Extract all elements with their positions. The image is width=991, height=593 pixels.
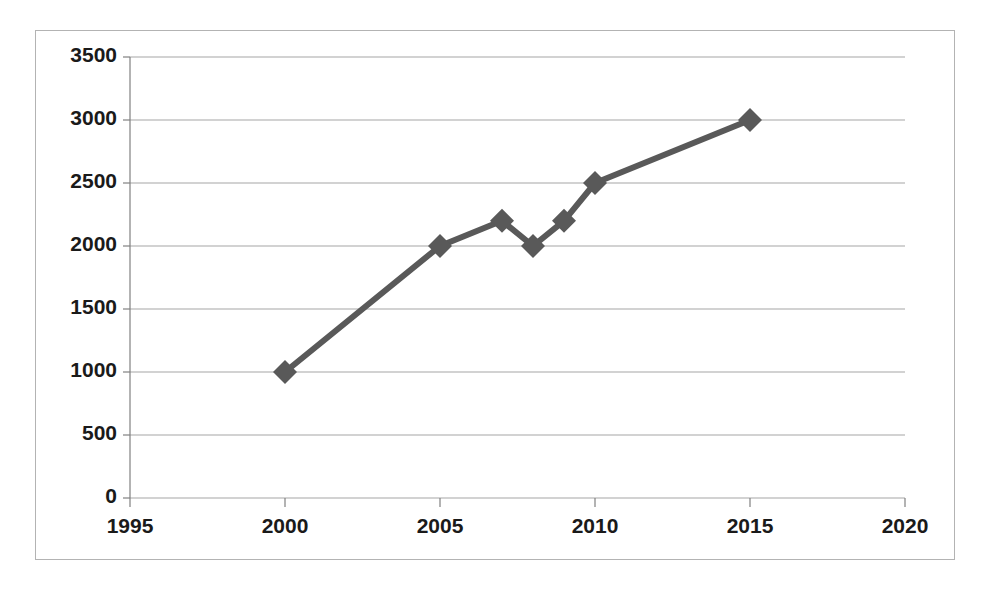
x-tick-label: 2000 (225, 514, 345, 538)
data-point-marker (738, 108, 762, 132)
y-tick-label: 3500 (70, 43, 117, 67)
x-tick-label: 2005 (380, 514, 500, 538)
plot-area (0, 0, 991, 593)
line-chart: 0500100015002000250030003500 19952000200… (0, 0, 991, 593)
y-tick-label: 0 (105, 484, 117, 508)
x-tick-label: 2015 (690, 514, 810, 538)
x-axis-ticks (130, 498, 905, 507)
x-tick-label: 2020 (845, 514, 965, 538)
gridlines (130, 57, 905, 498)
x-tick-label: 1995 (70, 514, 190, 538)
y-tick-label: 3000 (70, 106, 117, 130)
y-axis-ticks (123, 57, 130, 498)
y-tick-label: 1500 (70, 295, 117, 319)
y-tick-label: 1000 (70, 358, 117, 382)
y-tick-label: 500 (82, 421, 117, 445)
y-tick-label: 2000 (70, 232, 117, 256)
x-tick-label: 2010 (535, 514, 655, 538)
y-tick-label: 2500 (70, 169, 117, 193)
